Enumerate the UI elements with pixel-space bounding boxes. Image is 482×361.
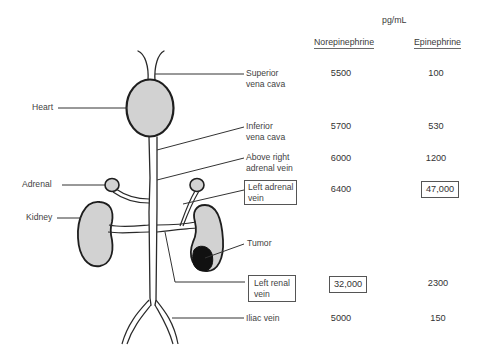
value-norepinephrine: 6000 <box>311 153 371 164</box>
value-norepinephrine: 5500 <box>311 68 371 79</box>
site-line2: vena cava <box>246 79 285 90</box>
site-line1: Iliac vein <box>246 313 279 324</box>
site-left-renal-vein: Left renal vein <box>248 275 296 302</box>
value-epinephrine: 530 <box>406 121 466 132</box>
site-line1: Above right <box>246 152 293 163</box>
heart-shape <box>127 80 174 137</box>
site-inferior-vena-cava: Inferior vena cava <box>246 121 285 142</box>
value-norepinephrine: 5000 <box>311 313 371 324</box>
site-line1: Superior <box>246 68 285 79</box>
column-header-epinephrine: Epinephrine <box>414 37 461 49</box>
site-left-adrenal-vein: Left adrenal vein <box>244 180 297 205</box>
value-epinephrine: 2300 <box>408 278 468 289</box>
column-header-norepinephrine: Norepinephrine <box>314 37 374 49</box>
site-iliac-vein: Iliac vein <box>246 313 279 324</box>
adrenal-label: Adrenal <box>22 179 52 190</box>
site-line2: vein <box>254 289 290 300</box>
value-norepinephrine: 5700 <box>311 121 371 132</box>
site-line2: adrenal vein <box>246 163 293 174</box>
site-line1: Left renal <box>254 278 290 289</box>
site-above-right-adrenal-vein: Above right adrenal vein <box>246 152 293 173</box>
site-line1: Inferior <box>246 121 285 132</box>
value-norepinephrine-highlighted: 32,000 <box>329 276 367 293</box>
site-line2: vein <box>248 193 293 204</box>
site-line1: Left adrenal <box>248 182 293 193</box>
unit-label: pg/mL <box>382 15 406 25</box>
left-jugular-vein <box>138 51 148 81</box>
site-superior-vena-cava: Superior vena cava <box>246 68 285 89</box>
kidney-label: Kidney <box>26 212 52 223</box>
value-epinephrine-highlighted: 47,000 <box>421 181 459 198</box>
value-epinephrine: 100 <box>406 68 466 79</box>
site-line2: vena cava <box>246 132 285 143</box>
tumor-label: Tumor <box>247 238 272 249</box>
catecholamine-sampling-diagram: pg/mL Norepinephrine Epinephrine Heart A… <box>0 0 482 361</box>
right-jugular-vein <box>155 51 164 81</box>
right-kidney-shape <box>78 202 113 266</box>
value-epinephrine: 150 <box>408 313 468 324</box>
value-epinephrine: 1200 <box>406 153 466 164</box>
heart-label: Heart <box>32 102 53 113</box>
left-adrenal-shape <box>190 179 204 192</box>
tumor-shape <box>193 246 213 271</box>
venous-anatomy-drawing <box>0 0 482 361</box>
value-norepinephrine: 6400 <box>311 184 371 195</box>
